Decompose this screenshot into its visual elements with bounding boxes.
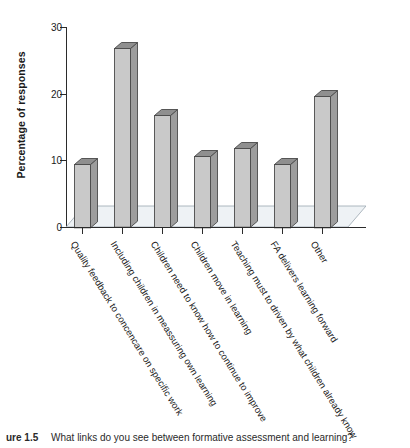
bar-shape [234,142,259,229]
caption-text: What links do you see between formative … [51,432,353,443]
bar [194,150,219,229]
x-axis-tick [282,228,283,234]
y-axis-line [66,27,67,227]
bar-shape [114,42,139,229]
y-axis-tick-label: 0 [22,222,62,233]
figure-container: Percentage of responses 0102030 Quality … [0,0,410,448]
bar-shape [154,109,179,229]
bar [114,42,139,229]
bar-shape [274,158,299,229]
figure-caption: ure 1.5 What links do you see between fo… [6,432,406,443]
bar [234,142,259,229]
y-axis-tick-label: 10 [22,155,62,166]
x-axis-tick [322,228,323,234]
bar-shape [194,150,219,229]
bar-shape [74,158,99,229]
bar [314,90,339,229]
bar [74,158,99,229]
x-axis-tick [122,228,123,234]
x-axis-tick [242,228,243,234]
plot-area: 0102030 [0,0,410,250]
x-axis-tick [162,228,163,234]
x-axis-line [66,227,366,228]
x-axis-tick [82,228,83,234]
bar [154,109,179,229]
bar-shape [314,90,339,229]
x-axis-tick [202,228,203,234]
y-axis-tick-label: 20 [22,88,62,99]
x-axis-category-label: FA delivers learning forward [269,239,340,344]
bar [274,158,299,229]
figure-number: ure 1.5 [6,432,38,443]
y-axis-tick-label: 30 [22,22,62,33]
